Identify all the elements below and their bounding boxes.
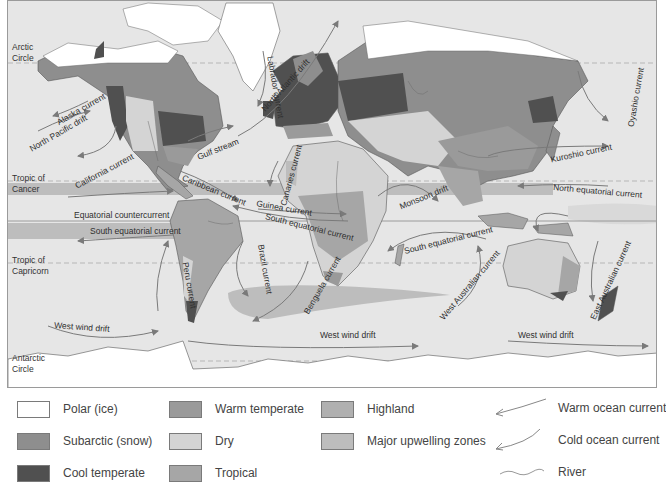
upwelling-zone-west-wind-drift	[228, 285, 450, 319]
legend-item-highland: Highland	[321, 398, 414, 420]
label-antarctic-circle: AntarcticCircle	[12, 353, 45, 375]
legend-item-polar: Polar (ice)	[17, 398, 118, 420]
label-arctic-circle: ArcticCircle	[12, 42, 34, 64]
legend-item-tropical: Tropical	[169, 462, 257, 484]
swatch-warm-temperate	[169, 401, 202, 418]
cold-current-arrow-icon	[488, 429, 548, 451]
swatch-tropical	[169, 465, 202, 482]
swatch-upwelling	[321, 433, 354, 450]
legend-item-subarctic: Subarctic (snow)	[17, 430, 152, 452]
legend-item-upwelling: Major upwelling zones	[321, 430, 486, 452]
legend-item-warm-current: Warm ocean current	[488, 397, 666, 419]
legend-item-cool-temperate: Cool temperate	[17, 462, 145, 484]
world-climate-map: ArcticCircle Tropic ofCancer Tropic ofCa…	[7, 0, 657, 388]
label-west-wind-drift-indian: West wind drift	[518, 331, 574, 340]
label-south-equatorial-current-pacific: South equatorial current	[90, 227, 181, 236]
label-equatorial-countercurrent: Equatorial countercurrent	[74, 211, 169, 220]
swatch-cool-temperate	[17, 465, 50, 482]
label-tropic-of-cancer: Tropic ofCancer	[12, 173, 45, 195]
river-line-icon	[488, 461, 548, 483]
legend-item-cold-current: Cold ocean current	[488, 429, 659, 451]
swatch-subarctic	[17, 433, 50, 450]
label-tropic-of-capricorn: Tropic ofCapricorn	[12, 255, 49, 277]
map-legend: Polar (ice) Subarctic (snow) Cool temper…	[0, 395, 664, 501]
swatch-polar	[17, 401, 50, 418]
swatch-highland	[321, 401, 354, 418]
legend-item-river: River	[488, 461, 586, 483]
label-west-wind-drift-atlantic: West wind drift	[320, 331, 376, 340]
swatch-dry	[169, 433, 202, 450]
legend-item-warm-temperate: Warm temperate	[169, 398, 304, 420]
legend-item-dry: Dry	[169, 430, 234, 452]
warm-current-arrow-icon	[488, 397, 548, 419]
